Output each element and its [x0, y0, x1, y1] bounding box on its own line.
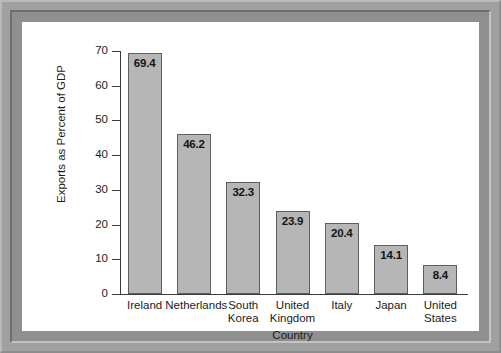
y-axis-tick [112, 51, 120, 52]
y-axis-tick [112, 190, 120, 191]
x-axis-category-label-line: United [412, 299, 469, 312]
bar: 32.3 [226, 182, 260, 294]
chart-panel: Exports as Percent of GDP 70605040302010… [22, 22, 479, 331]
x-axis-line [120, 294, 468, 295]
bar: 14.1 [374, 245, 408, 294]
bar-value-label: 20.4 [326, 227, 358, 239]
y-axis-tick [112, 155, 120, 156]
chart-screenshot: Exports as Percent of GDP 70605040302010… [0, 0, 501, 353]
x-axis-title: Country [120, 329, 465, 341]
y-axis-tick-label-text: 70 [82, 45, 108, 56]
y-axis-tick-label-text: 50 [82, 114, 108, 125]
y-axis-tick-label-text: 60 [82, 80, 108, 91]
y-axis-tick-label-text: 40 [82, 149, 108, 160]
bars-container: 69.446.232.323.920.414.18.4 [120, 51, 465, 294]
bar-value-label: 14.1 [375, 249, 407, 261]
bar: 23.9 [276, 211, 310, 294]
y-axis-tick [112, 225, 120, 226]
bar-value-label: 23.9 [277, 215, 309, 227]
x-axis-category-label-line: Kingdom [264, 312, 321, 325]
bar-value-label: 8.4 [424, 269, 456, 281]
y-axis-tick-label-text: 30 [82, 184, 108, 195]
y-axis-tick-label: 0 [80, 288, 108, 299]
y-axis-tick [112, 120, 120, 121]
y-axis-tick-label: 10 [80, 253, 108, 264]
y-axis-tick-label: 70 [80, 45, 108, 56]
y-axis-tick-label: 40 [80, 149, 108, 160]
bar: 8.4 [423, 265, 457, 294]
bar-value-label: 32.3 [227, 186, 259, 198]
x-axis-category-label: UnitedStates [412, 299, 469, 325]
y-axis-tick [112, 294, 120, 295]
bar-value-label: 69.4 [129, 57, 161, 69]
y-axis-tick-label: 20 [80, 219, 108, 230]
y-axis-tick-label: 30 [80, 184, 108, 195]
bar: 69.4 [128, 53, 162, 294]
y-axis-tick [112, 86, 120, 87]
bar: 46.2 [177, 134, 211, 294]
y-axis-tick-label: 60 [80, 80, 108, 91]
bar: 20.4 [325, 223, 359, 294]
x-axis-category-label-line: States [412, 312, 469, 325]
y-axis-tick-label: 50 [80, 114, 108, 125]
y-axis-tick-label-text: 0 [82, 288, 108, 299]
y-axis-tick-label-text: 20 [82, 219, 108, 230]
bar-value-label: 46.2 [178, 138, 210, 150]
y-axis-tick [112, 259, 120, 260]
y-axis-title: Exports as Percent of GDP [55, 34, 67, 234]
y-axis-tick-label-text: 10 [82, 253, 108, 264]
